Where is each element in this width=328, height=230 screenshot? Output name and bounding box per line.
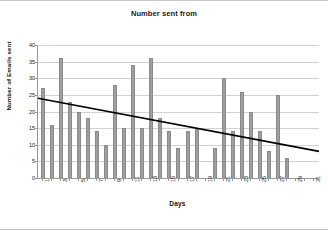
y-tick-label: 30 bbox=[21, 75, 35, 81]
x-tick-label: 19 bbox=[207, 176, 213, 182]
x-tick-mark bbox=[214, 178, 215, 181]
x-tick-mark bbox=[178, 178, 179, 181]
x-tick-label: 13 bbox=[152, 176, 158, 182]
x-tick-mark bbox=[42, 178, 43, 181]
x-tick-label: 15 bbox=[170, 176, 176, 182]
x-tick-mark bbox=[187, 178, 188, 181]
x-tick-mark bbox=[141, 178, 142, 181]
x-tick-label: 23 bbox=[243, 176, 249, 182]
y-tick-label: 15 bbox=[21, 125, 35, 131]
x-tick-mark bbox=[96, 178, 97, 181]
chart-title: Number sent from bbox=[0, 9, 328, 18]
x-tick-mark bbox=[259, 178, 260, 181]
x-tick-label: 5 bbox=[80, 179, 86, 182]
y-tick-label: 40 bbox=[21, 42, 35, 48]
x-tick-mark bbox=[78, 178, 79, 181]
x-tick-mark bbox=[232, 178, 233, 181]
x-tick-mark bbox=[241, 178, 242, 181]
y-tick-label: 25 bbox=[21, 92, 35, 98]
x-tick-label: 11 bbox=[134, 176, 140, 182]
x-tick-mark bbox=[60, 178, 61, 181]
x-tick-mark bbox=[69, 178, 70, 181]
x-tick-mark bbox=[268, 178, 269, 181]
x-tick-label: 27 bbox=[279, 176, 285, 182]
x-tick-mark bbox=[123, 178, 124, 181]
y-axis: 0510152025303540 bbox=[18, 45, 35, 178]
x-tick-label: 7 bbox=[98, 179, 104, 182]
x-tick-label: 17 bbox=[189, 176, 195, 182]
x-tick-mark bbox=[105, 178, 106, 181]
x-tick-mark bbox=[223, 178, 224, 181]
x-tick-mark bbox=[304, 178, 305, 181]
x-tick-label: 25 bbox=[261, 176, 267, 182]
trendline bbox=[38, 45, 319, 178]
x-tick-mark bbox=[205, 178, 206, 181]
x-tick-mark bbox=[159, 178, 160, 181]
x-tick-label: 9 bbox=[116, 179, 122, 182]
x-axis: 135791113151719212325272931 bbox=[37, 178, 318, 200]
chart-container: Number sent from Number of Emails sent 0… bbox=[0, 0, 328, 230]
plot-area bbox=[37, 45, 319, 179]
x-tick-mark bbox=[250, 178, 251, 181]
y-tick-label: 10 bbox=[21, 142, 35, 148]
x-tick-label: 1 bbox=[44, 179, 50, 182]
x-tick-label: 29 bbox=[297, 176, 303, 182]
x-tick-mark bbox=[87, 178, 88, 181]
x-tick-mark bbox=[51, 178, 52, 181]
x-tick-mark bbox=[286, 178, 287, 181]
x-axis-title: Days bbox=[37, 200, 318, 207]
x-tick-label: 21 bbox=[225, 176, 231, 182]
y-tick-label: 35 bbox=[21, 59, 35, 65]
y-tick-label: 5 bbox=[21, 158, 35, 164]
y-tick-label: 0 bbox=[21, 175, 35, 181]
x-tick-mark bbox=[114, 178, 115, 181]
x-tick-label: 31 bbox=[315, 176, 321, 182]
y-axis-title: Number of Emails sent bbox=[6, 36, 12, 116]
x-tick-label: 3 bbox=[62, 179, 68, 182]
y-tick-label: 20 bbox=[21, 109, 35, 115]
x-tick-mark bbox=[196, 178, 197, 181]
